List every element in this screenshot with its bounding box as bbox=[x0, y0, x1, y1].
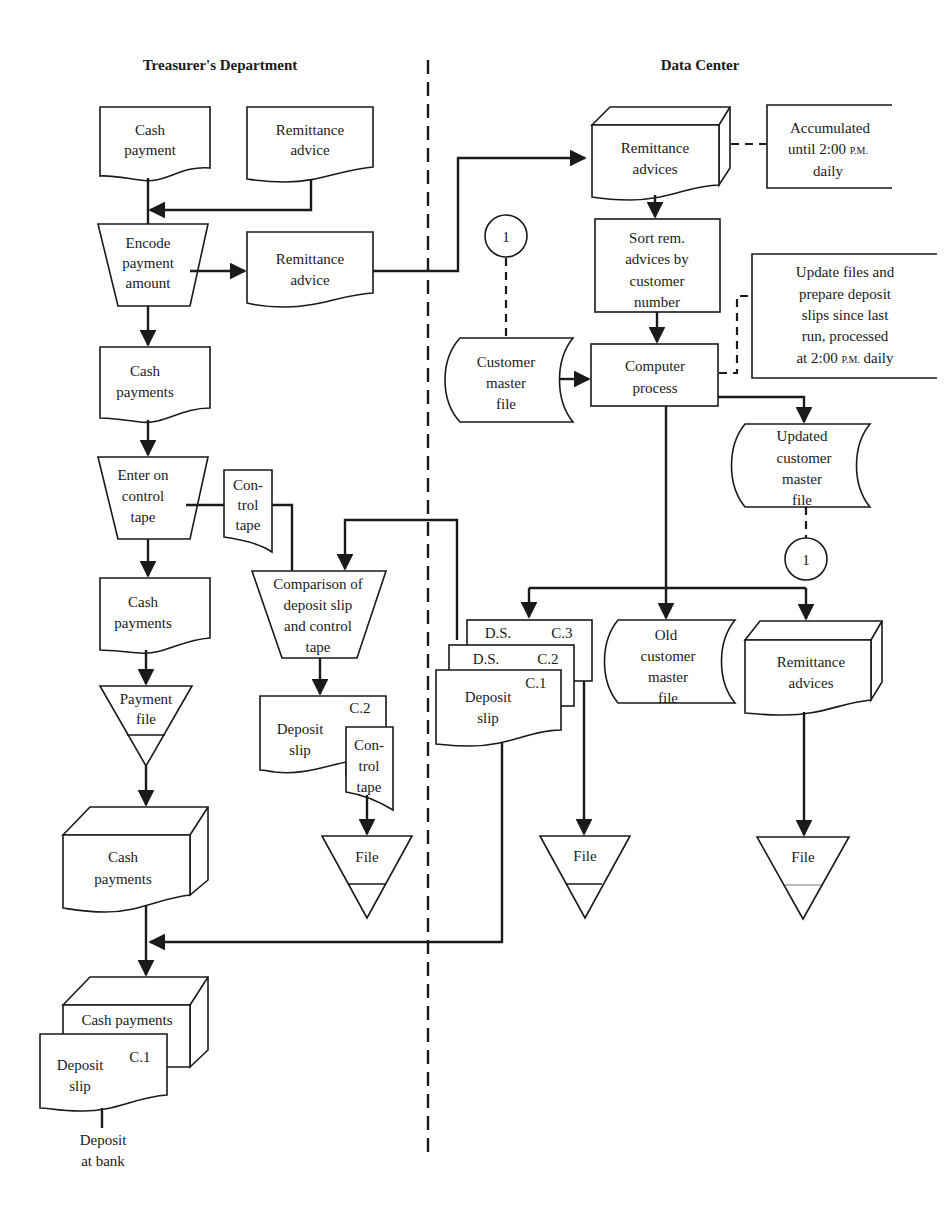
svg-text:trol: trol bbox=[238, 497, 259, 513]
enter-on-control-tape-operation: Enter on control tape bbox=[98, 457, 208, 539]
svg-text:slips since last: slips since last bbox=[802, 307, 889, 323]
off-page-connector-1-bottom: 1 bbox=[785, 538, 827, 580]
old-customer-master-file: Old customer master file bbox=[605, 620, 736, 706]
lane-title-datacenter: Data Center bbox=[661, 57, 740, 73]
remittance-advices-output: Remittance advices bbox=[745, 621, 882, 715]
svg-text:and control: and control bbox=[284, 618, 352, 634]
cash-payments-document-2: Cash payments bbox=[100, 578, 210, 653]
svg-text:tape: tape bbox=[357, 779, 382, 795]
deposit-at-bank-label: Deposit bbox=[80, 1132, 127, 1148]
svg-text:Cash: Cash bbox=[128, 594, 159, 610]
svg-text:trol: trol bbox=[359, 758, 380, 774]
control-tape-document: Con- trol tape bbox=[224, 470, 272, 552]
cash-payment-document: Cash payment bbox=[100, 107, 210, 181]
computer-process: Computer process bbox=[591, 344, 718, 406]
svg-text:D.S.: D.S. bbox=[473, 651, 500, 667]
svg-text:number: number bbox=[634, 294, 680, 310]
svg-text:Remittance: Remittance bbox=[276, 251, 345, 267]
svg-text:Customer: Customer bbox=[477, 354, 535, 370]
svg-text:deposit slip: deposit slip bbox=[284, 597, 353, 613]
svg-text:process: process bbox=[633, 380, 678, 396]
svg-text:Con-: Con- bbox=[233, 477, 263, 493]
svg-text:Remittance: Remittance bbox=[276, 122, 345, 138]
svg-text:file: file bbox=[136, 711, 156, 727]
svg-text:Accumulated: Accumulated bbox=[790, 120, 870, 136]
svg-text:Enter on: Enter on bbox=[117, 467, 169, 483]
payment-file-storage: Payment file bbox=[100, 686, 192, 766]
svg-text:1: 1 bbox=[502, 229, 510, 245]
remittance-advices-batch: Remittance advices bbox=[592, 107, 730, 200]
svg-text:master: master bbox=[486, 375, 526, 391]
svg-text:Con-: Con- bbox=[354, 737, 384, 753]
svg-text:Cash: Cash bbox=[135, 122, 166, 138]
svg-text:file: file bbox=[658, 690, 678, 706]
svg-text:Computer: Computer bbox=[625, 358, 685, 374]
svg-text:Deposit: Deposit bbox=[277, 721, 324, 737]
svg-text:control: control bbox=[122, 488, 165, 504]
deposit-slip-c1-dc: Deposit slip C.1 bbox=[436, 670, 561, 746]
svg-text:File: File bbox=[791, 849, 815, 865]
svg-text:Update files and: Update files and bbox=[796, 264, 895, 280]
remittance-advice-document: Remittance advice bbox=[247, 107, 373, 182]
svg-text:file: file bbox=[792, 492, 812, 508]
svg-text:Cash: Cash bbox=[130, 363, 161, 379]
svg-text:slip: slip bbox=[477, 710, 499, 726]
svg-text:D.S.: D.S. bbox=[485, 625, 512, 641]
svg-text:slip: slip bbox=[69, 1078, 91, 1094]
encode-payment-amount-operation: Encode payment amount bbox=[98, 224, 208, 306]
svg-text:advices by: advices by bbox=[625, 251, 689, 267]
deposit-slip-c1-final: Deposit slip C.1 bbox=[40, 1034, 167, 1111]
svg-text:customer: customer bbox=[641, 648, 696, 664]
svg-text:amount: amount bbox=[126, 275, 172, 291]
svg-text:prepare deposit: prepare deposit bbox=[799, 286, 892, 302]
svg-text:master: master bbox=[782, 471, 822, 487]
svg-text:Updated: Updated bbox=[777, 428, 828, 444]
svg-text:advice: advice bbox=[290, 272, 329, 288]
comparison-operation: Comparison of deposit slip and control t… bbox=[252, 571, 386, 658]
update-files-note: Update files and prepare deposit slips s… bbox=[752, 254, 937, 378]
svg-text:Deposit: Deposit bbox=[465, 689, 512, 705]
svg-text:Cash: Cash bbox=[108, 849, 139, 865]
svg-text:tape: tape bbox=[131, 509, 156, 525]
svg-text:C.3: C.3 bbox=[551, 625, 572, 641]
svg-text:1: 1 bbox=[802, 552, 810, 568]
svg-text:File: File bbox=[573, 848, 597, 864]
svg-text:Old: Old bbox=[655, 627, 678, 643]
svg-text:File: File bbox=[355, 849, 379, 865]
svg-text:customer: customer bbox=[630, 273, 685, 289]
svg-text:C.1: C.1 bbox=[129, 1049, 150, 1065]
customer-master-file: Customer master file bbox=[445, 338, 573, 422]
svg-text:Cash payments: Cash payments bbox=[81, 1012, 172, 1028]
file-storage-1: File bbox=[322, 836, 412, 918]
svg-text:run, processed: run, processed bbox=[802, 328, 889, 344]
updated-customer-master-file: Updated customer master file bbox=[732, 424, 871, 508]
svg-text:C.2: C.2 bbox=[349, 700, 370, 716]
svg-text:payments: payments bbox=[116, 384, 174, 400]
svg-text:tape: tape bbox=[236, 517, 261, 533]
svg-text:daily: daily bbox=[813, 163, 843, 179]
svg-text:Payment: Payment bbox=[120, 691, 173, 707]
sort-remittance-advices-process: Sort rem. advices by customer number bbox=[595, 219, 720, 312]
svg-text:advice: advice bbox=[290, 142, 329, 158]
flowchart-canvas: Treasurer's Department Data Center Cash … bbox=[0, 0, 950, 1207]
svg-text:advices: advices bbox=[789, 675, 834, 691]
svg-text:file: file bbox=[496, 396, 516, 412]
remittance-advice-output-document: Remittance advice bbox=[247, 232, 373, 307]
svg-text:payments: payments bbox=[114, 615, 172, 631]
file-storage-3: File bbox=[757, 837, 849, 919]
svg-text:slip: slip bbox=[289, 742, 311, 758]
control-tape-document-2: Con- trol tape bbox=[346, 727, 393, 810]
accumulated-note: Accumulated until 2:00 P.M. daily bbox=[767, 105, 892, 188]
svg-text:Sort rem.: Sort rem. bbox=[629, 230, 685, 246]
svg-text:C.2: C.2 bbox=[537, 651, 558, 667]
svg-text:Comparison of: Comparison of bbox=[273, 576, 363, 592]
svg-text:master: master bbox=[648, 669, 688, 685]
svg-text:Remittance: Remittance bbox=[621, 140, 690, 156]
file-storage-2: File bbox=[540, 836, 630, 918]
svg-text:until 2:00 P.M.: until 2:00 P.M. bbox=[788, 141, 868, 157]
svg-text:customer: customer bbox=[777, 450, 832, 466]
cash-payments-document-1: Cash payments bbox=[100, 347, 210, 422]
off-page-connector-1-top: 1 bbox=[485, 215, 527, 257]
svg-text:advices: advices bbox=[633, 161, 678, 177]
cash-payments-batch: Cash payments bbox=[63, 807, 208, 912]
